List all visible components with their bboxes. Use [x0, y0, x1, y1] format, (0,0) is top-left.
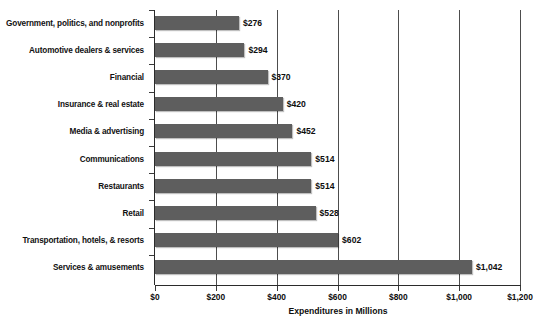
category-label: Government, politics, and nonprofits	[0, 19, 144, 29]
x-axis-tick-label: $200	[207, 292, 226, 302]
y-axis-tick	[149, 255, 154, 256]
y-axis-tick	[149, 64, 154, 65]
y-axis-tick	[149, 228, 154, 229]
gridline	[398, 10, 399, 285]
y-axis-tick	[149, 173, 154, 174]
x-axis-tick	[155, 286, 156, 291]
x-axis-tick-label: $400	[267, 292, 286, 302]
bar-value-label: $514	[315, 152, 334, 166]
x-axis-tick-label: $600	[328, 292, 347, 302]
x-axis-title: Expenditures in Millions	[155, 306, 521, 316]
bar-value-label: $602	[342, 233, 361, 247]
x-axis-tick	[398, 286, 399, 291]
x-axis-tick-label: $1,200	[507, 292, 533, 302]
bar-value-label: $452	[296, 124, 315, 138]
bar-value-label: $420	[287, 97, 306, 111]
bar-value-label: $370	[272, 70, 291, 84]
bar	[155, 179, 311, 193]
bar-value-label: $528	[320, 206, 339, 220]
y-axis-tick	[149, 146, 154, 147]
bar-value-label: $514	[315, 179, 334, 193]
bar-chart: Government, politics, and nonprofitsAuto…	[0, 0, 542, 326]
category-label: Insurance & real estate	[0, 100, 144, 110]
bar	[155, 16, 239, 30]
x-axis-tick	[520, 286, 521, 291]
x-axis-tick	[277, 286, 278, 291]
bar	[155, 260, 472, 274]
value-axis-line	[154, 10, 155, 285]
category-label: Automotive dealers & services	[0, 46, 144, 56]
gridline	[459, 10, 460, 285]
y-axis-tick	[149, 10, 154, 11]
category-label: Transportation, hotels, & resorts	[0, 236, 144, 246]
bar	[155, 124, 292, 138]
category-label: Financial	[0, 73, 144, 83]
y-axis-tick	[149, 119, 154, 120]
bar	[155, 97, 283, 111]
category-axis: Government, politics, and nonprofitsAuto…	[0, 12, 150, 283]
x-axis-tick-label: $800	[389, 292, 408, 302]
bar	[155, 152, 311, 166]
category-label: Media & advertising	[0, 127, 144, 137]
bar	[155, 70, 268, 84]
category-label: Communications	[0, 155, 144, 165]
category-label: Restaurants	[0, 182, 144, 192]
category-label: Services & amusements	[0, 263, 144, 273]
bar-value-label: $294	[248, 43, 267, 57]
bar	[155, 43, 244, 57]
bar	[155, 233, 338, 247]
category-label: Retail	[0, 209, 144, 219]
x-axis-tick-label: $1,000	[446, 292, 472, 302]
bar	[155, 206, 316, 220]
x-axis-tick	[338, 286, 339, 291]
gridline	[520, 10, 521, 285]
x-axis-tick	[216, 286, 217, 291]
bar-value-label: $1,042	[476, 260, 502, 274]
x-axis-tick-label: $0	[150, 292, 159, 302]
bar-value-label: $276	[243, 16, 262, 30]
plot-area: $276$294$370$420$452$514$514$528$602$1,0…	[155, 10, 520, 285]
y-axis-tick	[149, 200, 154, 201]
x-axis-tick	[459, 286, 460, 291]
y-axis-tick	[149, 37, 154, 38]
y-axis-tick	[149, 92, 154, 93]
